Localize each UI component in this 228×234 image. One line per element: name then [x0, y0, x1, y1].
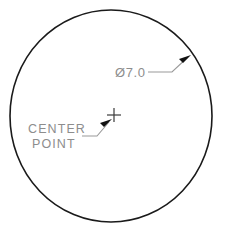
- diameter-leader: [148, 55, 191, 72]
- center-point-marker: [107, 108, 121, 122]
- technical-drawing-canvas: Ø7.0 CENTER POINT: [0, 0, 228, 234]
- circle-outline: [10, 10, 212, 222]
- center-point-label-line1: CENTER: [28, 122, 86, 136]
- diameter-arrowhead-icon: [179, 55, 191, 63]
- center-point-label-line2: POINT: [32, 137, 76, 151]
- diameter-dimension-label: Ø7.0: [115, 65, 146, 80]
- circle-diagram: Ø7.0 CENTER POINT: [0, 0, 228, 234]
- center-point-leader: [82, 119, 112, 136]
